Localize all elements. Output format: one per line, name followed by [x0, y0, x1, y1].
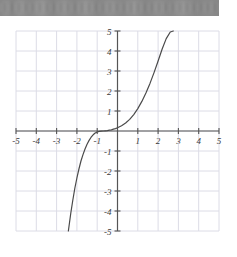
- x-tick-label: -4: [33, 136, 41, 146]
- y-tick-label: 5: [107, 27, 112, 37]
- y-tick-label: -5: [104, 227, 112, 237]
- header-blur-text: [0, 3, 219, 12]
- x-tick-label: -2: [73, 136, 81, 146]
- x-tick-label: -5: [12, 136, 20, 146]
- y-tick-label: 2: [107, 87, 112, 97]
- y-tick-label: 3: [106, 67, 112, 77]
- cartesian-graph: -5-4-3-2-11234554321-1-2-3-4-5: [0, 16, 237, 257]
- x-tick-label: 2: [156, 136, 161, 146]
- x-tick-label: -1: [93, 136, 101, 146]
- y-tick-label: -4: [104, 207, 112, 217]
- x-tick-label: 3: [175, 136, 181, 146]
- y-tick-label: 1: [107, 107, 112, 117]
- screenshot-root: -5-4-3-2-11234554321-1-2-3-4-5: [0, 0, 237, 257]
- y-tick-label: -1: [104, 147, 112, 157]
- x-tick-label: 5: [217, 136, 222, 146]
- y-tick-label: -3: [104, 187, 112, 197]
- x-tick-label: 4: [196, 136, 201, 146]
- y-tick-label: -2: [104, 167, 112, 177]
- graph-plot-area: -5-4-3-2-11234554321-1-2-3-4-5: [0, 16, 237, 257]
- x-tick-label: 1: [136, 136, 141, 146]
- obscured-header-bar: [0, 0, 219, 16]
- x-tick-label: -3: [53, 136, 61, 146]
- y-tick-label: 4: [107, 47, 112, 57]
